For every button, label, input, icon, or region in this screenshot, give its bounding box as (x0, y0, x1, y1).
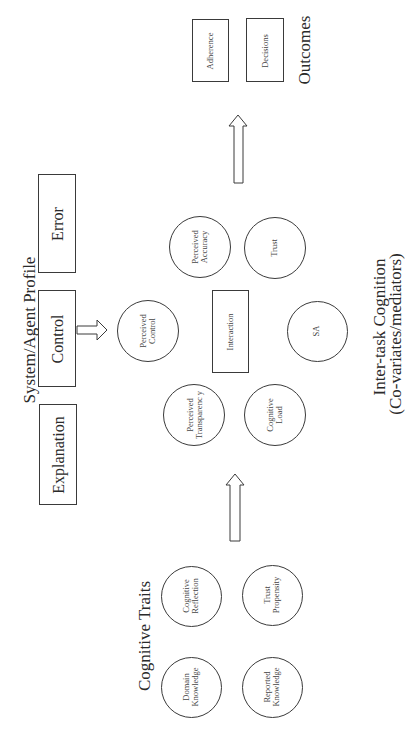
cognitive-load-circle: CognitiveLoad (244, 384, 306, 446)
cognitive-traits-title: Cognitive Traits (136, 581, 155, 691)
trust-propensity-circle: TrustPropensity (242, 565, 303, 626)
adherence-box: Adherence (192, 19, 229, 82)
arrow-traits-to-intertask (226, 474, 244, 541)
reported-knowledge-circle: ReportedKnowledge (242, 657, 303, 718)
perceived-transparency-label: PerceivedTransparenc y (186, 391, 205, 439)
perceived-transparency-circle: PerceivedTransparenc y (163, 384, 225, 446)
cognitive-load-label: CognitiveLoad (266, 398, 285, 432)
perceived-control-circle: PerceivedControl (117, 300, 179, 362)
domain-knowledge-circle: DomainKnowledge (161, 657, 222, 718)
trust-propensity-label: TrustPropensity (263, 577, 282, 613)
decisions-label: Decisions (261, 34, 270, 68)
control-label: Control (49, 315, 67, 364)
explanation-box: Explanation (39, 404, 77, 505)
interaction-box: Interaction (212, 290, 249, 373)
interaction-label: Interaction (226, 314, 235, 351)
system-profile-title: System/Agent Profile (21, 257, 40, 404)
decisions-box: Decisions (246, 18, 284, 82)
error-label: Error (49, 207, 67, 241)
control-box: Control (38, 290, 76, 387)
reported-knowledge-label: ReportedKnowledge (263, 667, 282, 706)
perceived-control-label: PerceivedControl (139, 314, 158, 348)
adherence-label: Adherence (206, 33, 215, 70)
trust-circle: Trust (244, 217, 306, 279)
error-box: Error (38, 174, 76, 273)
framework-diagram: System/Agent Profile Error Control Expla… (0, 0, 418, 742)
outcomes-title: Outcomes (296, 16, 315, 85)
cognitive-reflection-label: CognitiveReflection (182, 578, 201, 613)
perceived-accuracy-circle: PerceivedAccuracy (169, 216, 231, 278)
arrow-intertask-to-outcomes (229, 115, 247, 183)
cognitive-reflection-circle: CognitiveReflection (161, 566, 222, 627)
domain-knowledge-label: DomainKnowledge (182, 667, 201, 706)
trust-label: Trust (270, 239, 279, 257)
intertask-subtitle: (Co-variates/mediators) (387, 253, 406, 414)
sa-circle: SA (287, 301, 348, 362)
sa-label: SA (312, 326, 321, 337)
perceived-accuracy-label: PerceivedAccuracy (191, 230, 210, 264)
explanation-label: Explanation (50, 416, 68, 493)
arrow-system-to-intertask (77, 320, 107, 340)
